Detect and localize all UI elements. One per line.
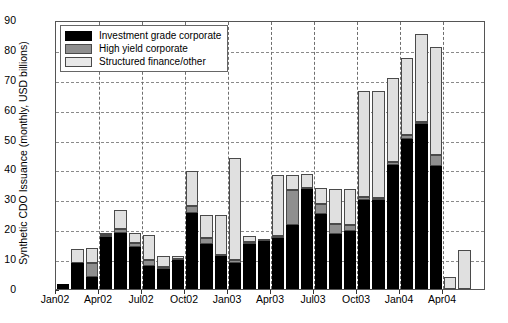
x-tick-mark-Jan04: [399, 290, 400, 294]
bar-segment-hy-Nov02: [200, 238, 212, 245]
structured-finance-swatch: [65, 57, 92, 67]
bar-Dec02: [215, 215, 227, 289]
legend-label-structured-finance: Structured finance/other: [99, 56, 206, 67]
synthetic-cdo-issuance-chart: Synthetic CDO Issuance (monthly, USD bil…: [0, 0, 508, 323]
bar-segment-sf-Dec02: [215, 215, 227, 256]
bar-segment-hy-Mar02: [86, 263, 98, 277]
bar-segment-sf-Feb02: [71, 249, 83, 263]
bar-Apr04-pre1: [444, 277, 456, 289]
bar-segment-hy-Feb04: [415, 122, 427, 124]
bar-segment-hy-May02: [114, 229, 126, 232]
bar-segment-inv-Sep02: [172, 260, 184, 289]
bar-segment-hy-Jun03: [301, 187, 313, 189]
bar-Oct02: [186, 171, 198, 289]
bar-segment-sf-May02: [114, 210, 126, 230]
bar-segment-inv-Apr03: [272, 238, 284, 289]
bar-segment-sf-Jul02: [143, 235, 155, 260]
x-tick-mark-Jul03: [313, 290, 314, 294]
bar-segment-inv-Jan02: [57, 284, 69, 289]
bar-segment-sf-Aug02: [157, 256, 169, 267]
bar-segment-inv-Jun03: [301, 189, 313, 289]
bar-segment-sf-Nov02: [200, 215, 212, 238]
y-tick-label-60: 60: [0, 104, 16, 116]
bar-segment-inv-Apr02: [100, 237, 112, 289]
bar-Apr04-pre2: [458, 250, 470, 289]
bar-segment-sf-Feb04: [415, 34, 427, 122]
bar-segment-sf-Sep03: [344, 189, 356, 225]
bar-segment-sf-Jul03: [315, 188, 327, 204]
y-tick-label-40: 40: [0, 163, 16, 175]
bar-Jan02: [57, 284, 69, 289]
bar-segment-sf-Jun03: [301, 174, 313, 188]
chart-legend: Investment grade corporate High yield co…: [60, 25, 228, 72]
legend-label-investment-grade: Investment grade corporate: [99, 30, 221, 41]
bar-segment-sf-Apr03: [272, 175, 284, 237]
bar-segment-inv-Mar03: [258, 241, 270, 289]
bar-Mar02: [86, 248, 98, 289]
bar-segment-hy-Mar04: [430, 155, 442, 165]
bar-Apr02: [100, 234, 112, 289]
bar-segment-hy-Jun02: [129, 243, 141, 247]
bar-segment-hy-Aug03: [329, 224, 341, 233]
bar-Feb03: [243, 236, 255, 289]
bar-segment-hy-May03: [286, 190, 298, 225]
bar-segment-inv-Mar04: [430, 166, 442, 289]
x-tick-mark-Apr04: [442, 290, 443, 294]
y-tick-label-70: 70: [0, 74, 16, 86]
bar-segment-inv-Dec02: [215, 256, 227, 289]
bar-segment-hy-Apr03: [272, 236, 284, 238]
bar-Feb04: [415, 34, 427, 289]
bar-Feb02: [71, 249, 83, 289]
y-tick-label-20: 20: [0, 223, 16, 235]
bar-segment-hy-Mar03: [258, 239, 270, 241]
bar-segment-sf-Nov03: [372, 91, 384, 199]
high-yield-swatch: [65, 44, 92, 54]
bar-Aug02: [157, 256, 169, 289]
bar-segment-hy-Oct03: [358, 197, 370, 200]
bar-segment-inv-May02: [114, 233, 126, 289]
bar-segment-sf-Oct03: [358, 91, 370, 197]
bar-segment-hy-Apr02: [100, 235, 112, 238]
x-tick-mark-Jul02: [141, 290, 142, 294]
bar-Nov02: [200, 215, 212, 289]
bar-segment-inv-Nov02: [200, 244, 212, 289]
bar-segment-inv-Feb02: [71, 263, 83, 289]
bar-Nov03: [372, 91, 384, 289]
bar-segment-inv-Feb04: [415, 124, 427, 289]
bar-Sep03: [344, 189, 356, 289]
bar-segment-sf-Jun02: [129, 233, 141, 243]
bar-Mar04: [430, 47, 442, 289]
bar-segment-hy-Jan04: [401, 135, 413, 139]
legend-item-investment-grade: Investment grade corporate: [65, 29, 221, 42]
bar-segment-inv-Aug02: [157, 269, 169, 289]
bar-segment-inv-May03: [286, 225, 298, 289]
bar-segment-inv-Jul03: [315, 214, 327, 289]
bar-segment-inv-Mar02: [86, 277, 98, 289]
bar-segment-inv-Oct02: [186, 213, 198, 289]
bar-segment-sf-Oct02: [186, 171, 198, 206]
bar-May03: [286, 175, 298, 289]
bar-Jun03: [301, 174, 313, 289]
bar-segment-sf-Jan04: [401, 58, 413, 135]
x-tick-mark-Oct02: [184, 290, 185, 294]
bar-segment-hy-Jan03: [229, 260, 241, 264]
bar-segment-sf-Apr04-pre2: [458, 250, 470, 289]
bar-segment-sf-Apr02: [100, 233, 112, 235]
bar-segment-hy-Feb03: [243, 242, 255, 244]
bar-segment-inv-Jan03: [229, 263, 241, 289]
y-tick-label-50: 50: [0, 134, 16, 146]
x-tick-mark-Jan03: [227, 290, 228, 294]
bar-Sep02: [172, 256, 184, 289]
bar-segment-inv-Oct03: [358, 200, 370, 289]
x-tick-mark-Apr03: [270, 290, 271, 294]
y-tick-label-0: 0: [0, 283, 16, 295]
bar-Jun02: [129, 233, 141, 289]
bar-segment-sf-Mar04: [430, 47, 442, 155]
y-tick-label-90: 90: [0, 14, 16, 26]
y-axis-title: Synthetic CDO Issuance (monthly, USD bil…: [17, 13, 29, 293]
x-tick-mark-Jan02: [55, 290, 56, 294]
bar-segment-sf-May03: [286, 175, 298, 190]
bar-segment-hy-Oct02: [186, 206, 198, 213]
bar-segment-sf-Apr04-pre1: [444, 277, 456, 289]
legend-label-high-yield: High yield corporate: [99, 43, 188, 54]
